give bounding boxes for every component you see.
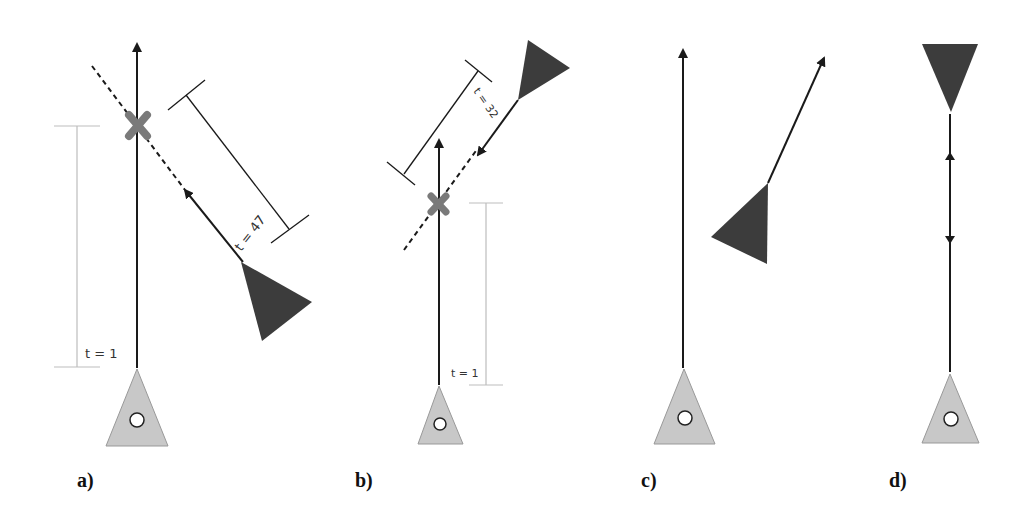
- arrow-down-icon: [945, 236, 955, 244]
- panel-d: d): [889, 44, 979, 492]
- own-agent-icon: [922, 374, 979, 443]
- other-time-bracket: [168, 80, 309, 243]
- own-agent-icon: [106, 369, 168, 446]
- other-time-label: t = 47: [232, 212, 269, 253]
- own-time-bracket: [469, 203, 503, 385]
- panel-label: a): [77, 469, 94, 492]
- other-trajectory-line: [768, 58, 824, 183]
- panel-c: c): [641, 50, 824, 492]
- other-trajectory-line: [185, 190, 243, 262]
- other-agent-icon: [711, 183, 768, 264]
- diagram-canvas: t = 1 t = 47 a) t = 1: [0, 0, 1033, 510]
- other-agent-icon: [241, 262, 312, 341]
- arrow-up-icon: [945, 152, 955, 160]
- panel-label: b): [355, 469, 373, 492]
- own-agent-center-icon: [678, 411, 692, 425]
- own-agent-icon: [654, 369, 715, 444]
- panel-b: t = 1 t = 32 b): [355, 40, 570, 492]
- own-agent-icon: [418, 386, 463, 444]
- own-agent-center-icon: [944, 412, 958, 426]
- other-time-label: t = 32: [471, 85, 501, 121]
- own-time-label: t = 1: [451, 367, 479, 380]
- own-agent-center-icon: [130, 413, 144, 427]
- own-time-label: t = 1: [85, 346, 118, 361]
- other-agent-icon: [518, 40, 570, 100]
- own-time-bracket: [54, 126, 100, 367]
- panel-label: d): [889, 469, 907, 492]
- panel-a: t = 1 t = 47 a): [54, 44, 312, 492]
- own-agent-center-icon: [434, 418, 446, 430]
- other-agent-icon: [922, 44, 978, 112]
- panel-label: c): [641, 469, 657, 492]
